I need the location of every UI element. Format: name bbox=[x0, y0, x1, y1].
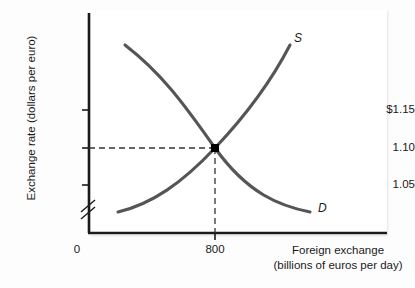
demand-curve bbox=[125, 45, 310, 212]
supply-curve bbox=[118, 45, 290, 212]
chart-svg bbox=[0, 0, 415, 288]
equilibrium-point-marker bbox=[211, 144, 219, 152]
exchange-rate-supply-demand-figure: Exchange rate (dollars per euro) $1.15 1… bbox=[0, 0, 415, 288]
